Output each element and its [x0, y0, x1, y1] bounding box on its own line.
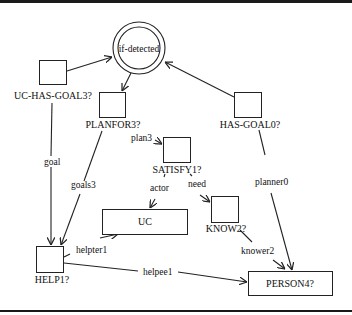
node-label-person4: PERSON4? — [266, 278, 314, 289]
edge-label-planner0: planner0 — [255, 177, 288, 187]
semantic-network-diagram: goal goals3 plan3 actor need planner0 kn… — [0, 0, 352, 315]
node-label-uc: UC — [138, 216, 152, 227]
node-help1[interactable]: HELP1? — [35, 247, 70, 286]
node-label-help1: HELP1? — [35, 274, 70, 285]
node-planfor3[interactable]: PLANFOR3? — [85, 93, 141, 131]
edge-uc-has-goal3-to-if-detected — [67, 57, 112, 71]
node-has-goal0[interactable]: HAS-GOAL0? — [220, 93, 281, 131]
node-label-satisfy1: SATISFY1? — [153, 164, 202, 175]
node-person4[interactable]: PERSON4? — [249, 272, 333, 296]
node-if-detected[interactable]: if-detected — [113, 22, 165, 74]
edge-has-goal0-to-if-detected — [165, 62, 234, 97]
edge-helpter1: helpter1 — [64, 234, 118, 257]
edge-actor: actor — [150, 174, 170, 208]
edge-label-helpee1: helpee1 — [143, 267, 173, 277]
node-uc[interactable]: UC — [103, 210, 188, 235]
node-label-uc-has-goal3: UC-HAS-GOAL3? — [14, 90, 92, 101]
edge-if-detected-to-planfor3 — [122, 73, 131, 91]
edge-label-actor: actor — [150, 183, 170, 193]
node-label-know2: KNOW2? — [206, 223, 247, 234]
node-label-has-goal0: HAS-GOAL0? — [220, 119, 281, 130]
edge-label-goal: goal — [44, 157, 61, 167]
edge-label-need: need — [188, 179, 206, 189]
edge-label-knower2: knower2 — [241, 246, 274, 256]
edge-knower2: knower2 — [240, 230, 285, 269]
edge-plan3: plan3 — [131, 133, 162, 144]
edge-need: need — [188, 174, 210, 202]
node-know2[interactable]: KNOW2? — [206, 197, 247, 235]
edge-goal: goal — [44, 103, 61, 245]
edge-goals3: goals3 — [61, 131, 102, 245]
node-label-planfor3: PLANFOR3? — [85, 119, 141, 130]
node-label-if-detected: if-detected — [119, 44, 160, 54]
edge-label-helpter1: helpter1 — [76, 245, 107, 255]
edge-label-goals3: goals3 — [71, 180, 96, 190]
edge-helpee1: helpee1 — [64, 263, 247, 282]
edge-label-plan3: plan3 — [131, 133, 152, 143]
